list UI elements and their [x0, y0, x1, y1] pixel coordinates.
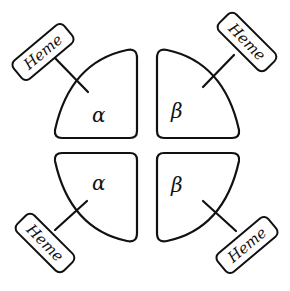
subunit-label: α: [92, 171, 106, 195]
hemoglobin-diagram: α β α β Heme Heme Heme Heme: [0, 0, 290, 291]
subunit-label: β: [170, 173, 183, 197]
subunit-alpha-bottom-left: α: [55, 153, 137, 241]
subunit-alpha-top-left: α: [55, 50, 137, 138]
subunit-beta-bottom-right: β: [157, 153, 239, 241]
subunit-label: α: [92, 103, 106, 127]
heme-tag-bottom-left: Heme: [13, 211, 77, 275]
subunit-label: β: [170, 99, 183, 123]
heme-tag-top-left: Heme: [10, 22, 76, 83]
heme-tag-bottom-right: Heme: [214, 215, 280, 276]
